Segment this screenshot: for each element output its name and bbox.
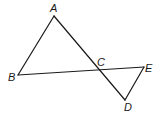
label-a: A <box>49 2 57 14</box>
label-e: E <box>145 62 153 74</box>
geometry-diagram: A B C D E <box>0 0 159 116</box>
labels: A B C D E <box>8 2 153 113</box>
label-c: C <box>97 56 105 68</box>
label-d: D <box>124 101 132 113</box>
segments <box>18 16 144 100</box>
segment-be <box>18 67 144 75</box>
segment-ed <box>125 67 144 100</box>
label-b: B <box>8 71 15 83</box>
segment-ab <box>18 16 54 75</box>
segment-ad <box>54 16 125 100</box>
